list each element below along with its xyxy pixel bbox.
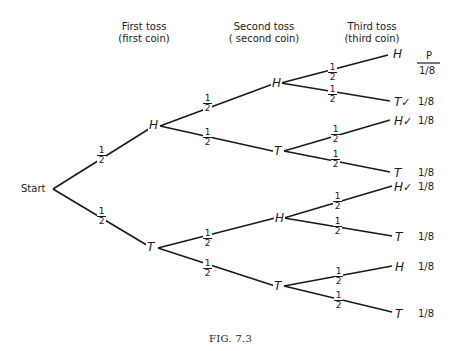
prob-hh-t: 12 — [328, 85, 337, 104]
prob-h-h: 12 — [203, 94, 212, 113]
outcome-thh: H✓ — [393, 181, 413, 194]
start-label: Start — [21, 183, 45, 194]
header-second-line2: ( second coin) — [228, 33, 300, 45]
prob-start-heads: 12 — [97, 146, 106, 165]
header-first-line2: (first coin) — [114, 33, 174, 45]
checkmark-icon: ✓ — [401, 96, 410, 109]
prob-h-t: 12 — [203, 128, 212, 147]
outcome-hth-probability: 1/8 — [418, 115, 434, 127]
probability-column-header: P — [418, 50, 440, 61]
prob-ht-h: 12 — [331, 125, 340, 144]
header-second-line1: Second toss — [228, 21, 300, 33]
outcome-tht: T — [394, 231, 403, 243]
outcome-hhh: H — [392, 48, 403, 60]
outcome-hhh-probability: 1/8 — [419, 65, 435, 77]
header-third-line1: Third toss — [340, 21, 404, 33]
outcome-thh-probability: 1/8 — [418, 181, 434, 193]
header-third-line2: (third coin) — [340, 33, 404, 45]
node-second-tt: T — [273, 280, 282, 292]
prob-t-t: 12 — [203, 259, 212, 278]
outcome-tth: H — [394, 261, 405, 273]
header-first-line1: First toss — [114, 21, 174, 33]
prob-tt-h: 12 — [334, 267, 343, 286]
outcome-htt: T — [393, 167, 402, 179]
node-first-heads: H — [148, 119, 159, 131]
header-third-toss: Third toss (third coin) — [340, 21, 404, 45]
checkmark-icon: ✓ — [403, 115, 412, 128]
outcome-htt-probability: 1/8 — [418, 167, 434, 179]
node-second-hh: H — [271, 77, 282, 89]
prob-tt-t: 12 — [334, 291, 343, 310]
header-first-toss: First toss (first coin) — [114, 21, 174, 45]
outcome-hht: T✓ — [393, 96, 412, 109]
outcome-ttt-probability: 1/8 — [418, 308, 434, 320]
outcome-hth: H✓ — [393, 115, 413, 128]
node-first-tails: T — [146, 241, 155, 253]
node-second-th: H — [274, 212, 285, 224]
outcome-tth-probability: 1/8 — [418, 261, 434, 273]
outcome-hht-probability: 1/8 — [418, 96, 434, 108]
node-second-ht: T — [273, 145, 282, 157]
tree-edges — [0, 0, 460, 351]
header-second-toss: Second toss ( second coin) — [228, 21, 300, 45]
figure-caption: FIG. 7.3 — [209, 333, 252, 344]
prob-t-h: 12 — [203, 229, 212, 248]
prob-th-t: 12 — [333, 217, 342, 236]
prob-hh-h: 12 — [328, 63, 337, 82]
outcome-tht-probability: 1/8 — [418, 231, 434, 243]
checkmark-icon: ✓ — [403, 181, 412, 194]
prob-ht-t: 12 — [331, 150, 340, 169]
prob-start-tails: 12 — [97, 207, 106, 226]
prob-th-h: 12 — [333, 192, 342, 211]
outcome-ttt: T — [394, 308, 403, 320]
